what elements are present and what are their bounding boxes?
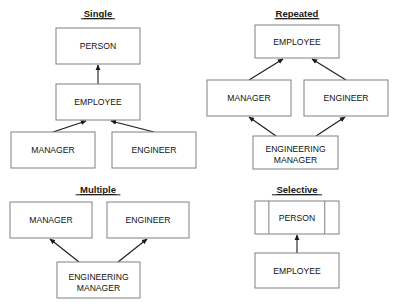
class-label-single-engineer: ENGINEER <box>132 145 177 155</box>
generalization-multiple-engmanager-to-engineer <box>118 239 147 262</box>
class-label-repeated-engmanager-line2: MANAGER <box>274 155 317 165</box>
panel-repeated: RepeatedEMPLOYEEMANAGERENGINEERENGINEERI… <box>207 8 388 169</box>
panel-title-selective: Selective <box>276 184 317 195</box>
class-node-multiple-engineer[interactable]: ENGINEER <box>107 202 189 238</box>
class-node-single-person[interactable]: PERSON <box>56 28 140 64</box>
class-label-repeated-employee: EMPLOYEE <box>273 37 321 47</box>
generalization-repeated-manager-to-employee <box>249 59 283 80</box>
class-label-selective-employee: EMPLOYEE <box>273 266 321 276</box>
generalization-single-manager-to-employee <box>53 121 86 132</box>
class-label-multiple-engineer: ENGINEER <box>126 215 171 225</box>
class-label-multiple-manager: MANAGER <box>29 215 72 225</box>
class-node-multiple-engmanager[interactable]: ENGINEERINGMANAGER <box>57 262 140 298</box>
class-node-single-engineer[interactable]: ENGINEER <box>112 132 196 168</box>
panel-single: SinglePERSONEMPLOYEEMANAGERENGINEER <box>11 8 196 168</box>
inheritance-diagram: SinglePERSONEMPLOYEEMANAGERENGINEERRepea… <box>0 0 395 305</box>
class-label-single-employee: EMPLOYEE <box>74 97 122 107</box>
panel-title-single: Single <box>84 8 113 19</box>
class-node-single-employee[interactable]: EMPLOYEE <box>56 84 140 120</box>
class-label-repeated-engineer: ENGINEER <box>324 93 369 103</box>
panel-multiple: MultipleMANAGERENGINEERENGINEERINGMANAGE… <box>10 184 189 298</box>
class-node-repeated-engmanager[interactable]: ENGINEERINGMANAGER <box>253 136 338 169</box>
generalization-repeated-engmanager-to-manager <box>249 117 276 136</box>
class-node-selective-person[interactable]: PERSON <box>255 201 339 234</box>
panel-title-multiple: Multiple <box>80 184 116 195</box>
diagram-canvas: SinglePERSONEMPLOYEEMANAGERENGINEERRepea… <box>0 0 395 305</box>
panel-title-repeated: Repeated <box>276 8 319 19</box>
generalization-multiple-engmanager-to-manager <box>50 239 79 262</box>
class-node-selective-employee[interactable]: EMPLOYEE <box>255 253 339 288</box>
generalization-single-engineer-to-employee <box>111 121 154 132</box>
class-node-single-manager[interactable]: MANAGER <box>11 132 95 168</box>
class-node-repeated-manager[interactable]: MANAGER <box>207 80 291 116</box>
class-node-repeated-engineer[interactable]: ENGINEER <box>304 80 388 116</box>
class-label-multiple-engmanager-line2: MANAGER <box>77 283 120 293</box>
class-label-multiple-engmanager-line1: ENGINEERING <box>68 272 128 282</box>
class-node-multiple-manager[interactable]: MANAGER <box>10 202 92 238</box>
class-label-repeated-engmanager-line1: ENGINEERING <box>265 144 325 154</box>
class-label-selective-person: PERSON <box>279 213 315 223</box>
generalization-repeated-engineer-to-employee <box>312 59 346 80</box>
class-label-repeated-manager: MANAGER <box>227 93 270 103</box>
class-node-repeated-employee[interactable]: EMPLOYEE <box>255 25 339 58</box>
class-label-single-manager: MANAGER <box>31 145 74 155</box>
class-label-single-person: PERSON <box>80 41 116 51</box>
generalization-repeated-engmanager-to-engineer <box>316 117 345 136</box>
panel-selective: SelectivePERSONEMPLOYEE <box>255 184 339 288</box>
